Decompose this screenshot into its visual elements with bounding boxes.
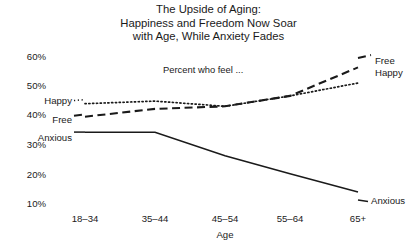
- leader-line-free-right: [358, 55, 371, 58]
- leader-line-free-left: [74, 114, 85, 115]
- chart-container: The Upside of Aging: Happiness and Freed…: [0, 0, 417, 251]
- leader-line-anxious-right: [358, 200, 368, 201]
- plot-area: Percent who feel ... 60% 50% 40% 30% 20%…: [0, 0, 417, 251]
- series-line-anxious: [85, 132, 358, 192]
- series-lines: [0, 0, 417, 251]
- leader-line-happy-left: [74, 100, 85, 101]
- series-line-happy: [85, 83, 358, 106]
- series-line-free: [85, 67, 358, 116]
